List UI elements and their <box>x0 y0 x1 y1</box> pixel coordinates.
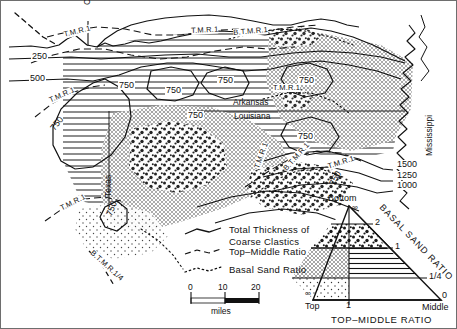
map-body <box>9 13 441 305</box>
contour-label-750-f: 750 <box>187 111 204 120</box>
ternary-bottom-axis-title: TOP–MIDDLE RATIO <box>331 315 432 325</box>
ternary-diagram-graphic <box>292 206 441 305</box>
ternary-tick-0: 0 <box>442 291 447 300</box>
ternary-right-label: Middle <box>422 303 449 312</box>
mississippi-river-branch <box>419 15 429 81</box>
scale-tick-10: 10 <box>218 283 227 292</box>
legend-top-middle-ratio: Top–Middle Ratio <box>229 247 306 257</box>
map-figure-svg <box>1 1 457 329</box>
scale-tick-0: 0 <box>188 283 193 292</box>
contour-south-b <box>215 209 345 223</box>
legend-line-dotted <box>185 267 221 272</box>
contour-label-1250: 1250 <box>396 171 418 180</box>
ternary-tick-2: 2 <box>375 218 380 227</box>
contour-label-1500: 1500 <box>396 160 418 169</box>
legend-line-solid <box>185 228 221 234</box>
tmr-label-2: T.M.R.1 <box>191 26 219 35</box>
louisiana-label: Louisiana <box>234 112 270 121</box>
contour-label-750-e: 750 <box>297 132 314 141</box>
contour-label-750-b: 750 <box>165 86 182 95</box>
ternary-tick-1: 1 <box>395 242 400 251</box>
arkansas-label: Arkansas <box>233 98 268 107</box>
scale-tick-20: 20 <box>251 283 260 292</box>
scale-bar-graphic <box>191 292 259 304</box>
texas-label: Texas <box>104 175 113 197</box>
contour-label-750-c: 750 <box>217 76 234 85</box>
contour-label-500: 500 <box>29 74 46 83</box>
okla-label: Okla. <box>83 0 92 5</box>
ternary-bottom-mid-value: 1 <box>346 301 351 310</box>
legend-total-thickness-line1: Total Thickness of <box>229 225 309 235</box>
mississippi-label: Mississippi <box>425 115 434 156</box>
legend-line-dashed <box>185 249 221 254</box>
ternary-apex-value: ∞ <box>352 204 358 212</box>
contour-label-1000: 1000 <box>396 181 418 190</box>
contour-label-750-d: 750 <box>298 76 315 85</box>
contour-label-750-a: 750 <box>118 81 135 90</box>
ternary-apex-label: Bottom <box>328 194 357 203</box>
scale-units-label: miles <box>211 307 231 316</box>
contour-label-250: 250 <box>31 52 48 61</box>
tmr-label-3: T.M.R.1 <box>273 84 300 92</box>
figure-root: Okla. Arkansas Louisiana Texas Mississip… <box>0 0 457 329</box>
ternary-left-label: Top <box>305 302 320 311</box>
ternary-left-value: ∞ <box>305 290 311 298</box>
border-dashed-nw <box>15 13 57 45</box>
legend-basal-sand-ratio: Basal Sand Ratio <box>229 265 306 275</box>
